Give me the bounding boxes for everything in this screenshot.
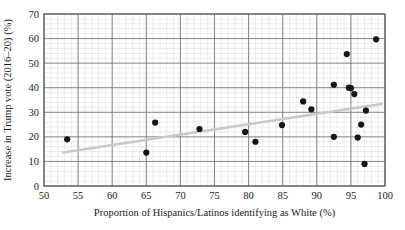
x-axis-title: Proportion of Hispanics/Latinos identify…: [94, 207, 336, 219]
data-point: [300, 98, 306, 104]
data-point: [331, 82, 337, 88]
data-point: [373, 36, 379, 42]
x-tick-label: 90: [312, 190, 323, 201]
data-point: [143, 149, 149, 155]
y-tick-label: 30: [29, 107, 40, 118]
y-axis-tick-labels: 010203040506070: [29, 9, 40, 192]
x-tick-label: 50: [39, 190, 50, 201]
data-point: [363, 107, 369, 113]
y-tick-label: 50: [29, 58, 40, 69]
x-tick-label: 95: [346, 190, 357, 201]
y-tick-label: 70: [29, 9, 40, 20]
major-gridlines: [44, 14, 385, 186]
y-tick-label: 10: [29, 156, 40, 167]
data-point: [279, 122, 285, 128]
y-tick-label: 20: [29, 131, 40, 142]
data-point: [331, 134, 337, 140]
scatter-plot-figure: 50556065707580859095100 010203040506070 …: [0, 0, 405, 230]
x-tick-label: 100: [377, 190, 393, 201]
y-tick-label: 60: [29, 33, 40, 44]
x-tick-label: 60: [107, 190, 118, 201]
data-point: [348, 85, 354, 91]
data-point: [252, 139, 258, 145]
data-point: [361, 161, 367, 167]
trendline: [63, 104, 381, 153]
y-tick-label: 0: [34, 181, 39, 192]
x-tick-label: 55: [73, 190, 84, 201]
data-point: [196, 126, 202, 132]
x-tick-label: 75: [209, 190, 220, 201]
data-point: [351, 91, 357, 97]
chart-canvas: 50556065707580859095100 010203040506070 …: [0, 0, 405, 230]
data-point: [64, 136, 70, 142]
y-axis-title: Increase in Trump vote (2016–20) (%): [2, 19, 14, 181]
x-tick-label: 65: [141, 190, 152, 201]
x-tick-label: 80: [243, 190, 254, 201]
y-tick-label: 40: [29, 82, 40, 93]
data-point: [355, 134, 361, 140]
data-point: [308, 106, 314, 112]
data-point: [344, 51, 350, 57]
data-point: [358, 121, 364, 127]
data-points: [64, 36, 379, 167]
data-point: [242, 129, 248, 135]
data-point: [152, 120, 158, 126]
x-tick-label: 70: [175, 190, 186, 201]
x-axis-tick-labels: 50556065707580859095100: [39, 190, 393, 201]
x-tick-label: 85: [277, 190, 288, 201]
